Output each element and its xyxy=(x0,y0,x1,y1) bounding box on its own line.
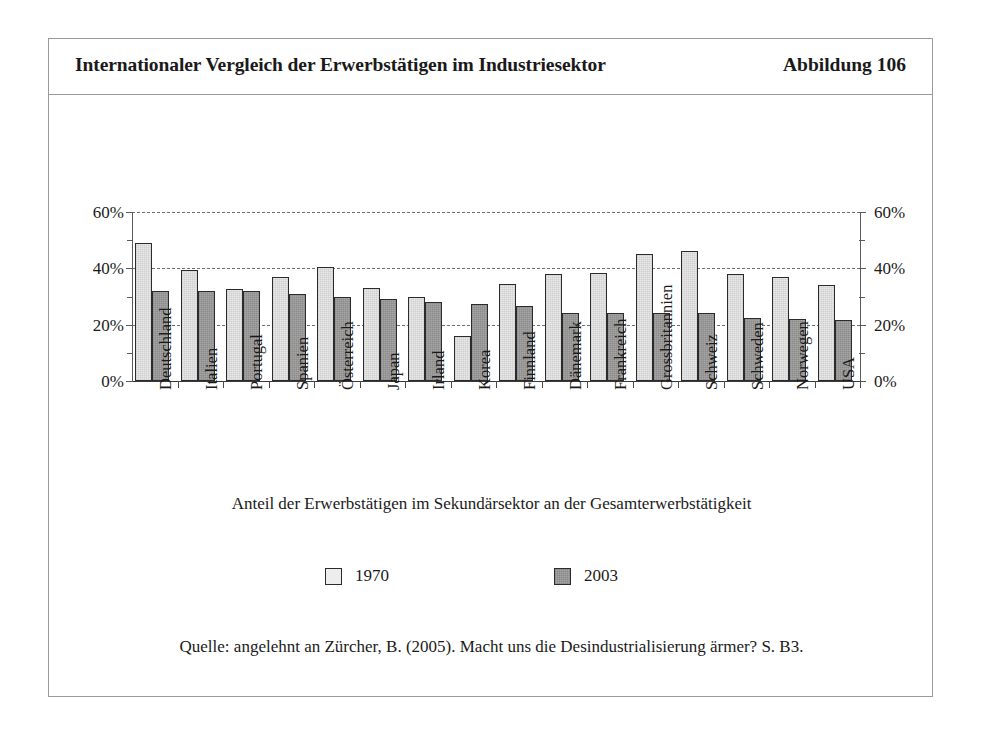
legend-item-2003: 2003 xyxy=(554,566,618,586)
figure-frame: Internationaler Vergleich der Erwerbstät… xyxy=(48,38,933,697)
bar-1970 xyxy=(454,336,471,381)
bar-1970 xyxy=(772,277,789,381)
x-axis-label-frankreich: Frankreich xyxy=(613,319,630,390)
x-axis-tick xyxy=(633,381,634,388)
bar-1970 xyxy=(727,274,744,381)
x-axis-tick xyxy=(405,381,406,388)
x-axis-tick xyxy=(678,381,679,388)
bar-1970 xyxy=(226,289,243,381)
x-axis-tick xyxy=(496,381,497,388)
x-axis-label-d-nemark: Dänemark xyxy=(568,321,585,390)
bar-group xyxy=(815,212,855,381)
legend-swatch-2003-icon xyxy=(554,568,571,585)
y-axis-label-left-0%: 0% xyxy=(101,373,124,390)
x-axis-label-deutschland: Deutschland xyxy=(158,308,175,390)
y-axis-label-left-40%: 40% xyxy=(93,260,124,277)
x-axis-tick xyxy=(451,381,452,388)
figure-title: Internationaler Vergleich der Erwerbstät… xyxy=(75,54,606,76)
bar-1970 xyxy=(272,277,289,381)
legend-label-2003: 2003 xyxy=(584,566,618,586)
y-tick-right-40 xyxy=(859,268,866,269)
x-axis-label-schweiz: Schweiz xyxy=(704,334,721,390)
source-note: Quelle: angelehnt an Zürcher, B. (2005).… xyxy=(49,637,934,657)
bar-1970 xyxy=(363,288,380,381)
x-axis-tick xyxy=(223,381,224,388)
bar-1970 xyxy=(545,274,562,381)
plot-area: 0%20%40%60% 0%20%40%60% DeutschlandItali… xyxy=(132,212,860,381)
x-axis-tick xyxy=(815,381,816,388)
bar-1970 xyxy=(135,243,152,381)
x-axis-label-finnland: Finnland xyxy=(522,331,539,390)
x-axis-tick xyxy=(269,381,270,388)
bar-1970 xyxy=(590,273,607,381)
chart-legend: 1970 2003 xyxy=(49,566,934,592)
chart-container: 0%20%40%60% 0%20%40%60% DeutschlandItali… xyxy=(49,95,934,698)
x-axis-label-usa: USA xyxy=(841,357,858,390)
x-axis-tick xyxy=(314,381,315,388)
bar-1970 xyxy=(408,297,425,382)
legend-swatch-1970-icon xyxy=(325,568,342,585)
bar-1970 xyxy=(681,251,698,381)
x-axis-tick xyxy=(178,381,179,388)
figure-title-bar: Internationaler Vergleich der Erwerbstät… xyxy=(49,39,932,95)
figure-number: Abbildung 106 xyxy=(783,54,906,76)
axis-caption: Anteil der Erwerbstätigen im Sekundärsek… xyxy=(49,494,934,514)
bar-1970 xyxy=(818,285,835,381)
x-axis-tick xyxy=(769,381,770,388)
x-axis-label-italien: Italien xyxy=(204,348,221,390)
y-axis-label-right-0%: 0% xyxy=(874,373,897,390)
x-axis-tick xyxy=(360,381,361,388)
y-axis-label-right-40%: 40% xyxy=(874,260,905,277)
y-axis-label-left-20%: 20% xyxy=(93,317,124,334)
legend-label-1970: 1970 xyxy=(355,566,389,586)
y-axis-label-right-60%: 60% xyxy=(874,204,905,221)
y-axis-label-left-60%: 60% xyxy=(93,204,124,221)
bar-1970 xyxy=(317,267,334,381)
x-axis-tick xyxy=(724,381,725,388)
x-axis-label-norwegen: Norwegen xyxy=(795,321,812,390)
x-axis-label-korea: Korea xyxy=(477,350,494,390)
x-axis-label--sterreich: Österreich xyxy=(340,321,357,390)
bar-1970 xyxy=(636,254,653,381)
legend-item-1970: 1970 xyxy=(325,566,389,586)
x-axis-label-grossbritannien: Grossbritannien xyxy=(659,285,676,390)
x-axis-label-schweden: Schweden xyxy=(750,322,767,390)
x-axis-tick xyxy=(587,381,588,388)
bar-1970 xyxy=(181,270,198,381)
x-axis-label-irland: Irland xyxy=(431,351,448,390)
y-tick-left-0 xyxy=(126,381,133,382)
bar-1970 xyxy=(499,284,516,381)
x-axis-tick xyxy=(860,381,861,388)
x-axis-tick xyxy=(542,381,543,388)
x-axis-label-japan: Japan xyxy=(386,352,403,390)
y-tick-right-60 xyxy=(859,212,866,213)
x-axis-label-spanien: Spanien xyxy=(295,337,312,390)
y-tick-right-20 xyxy=(859,325,866,326)
x-axis-label-portugal: Portugal xyxy=(249,334,266,390)
y-axis-label-right-20%: 20% xyxy=(874,317,905,334)
